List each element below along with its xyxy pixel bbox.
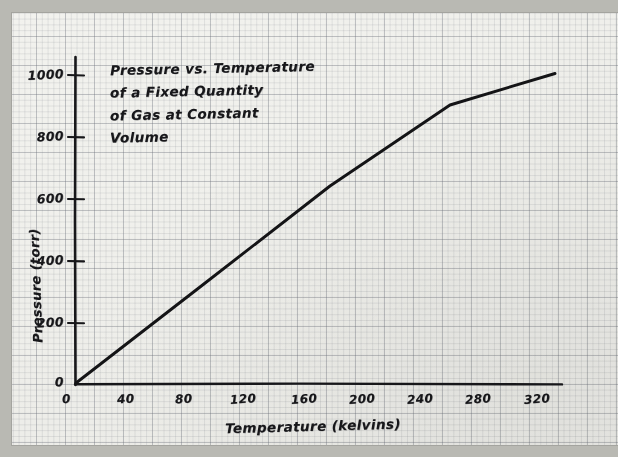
- chart-title-line-2: of a Fixed Quantity: [110, 81, 264, 100]
- x-axis-ticklabel-280: 280: [465, 391, 492, 407]
- x-axis-ticklabel-0: 0: [62, 392, 72, 407]
- x-axis-ticklabel-80: 80: [175, 391, 193, 406]
- y-axis-ticklabel-600: 600: [26, 190, 65, 207]
- y-axis-ticklabel-0: 0: [26, 374, 65, 391]
- x-axis-ticklabel-120: 120: [230, 391, 257, 407]
- graph-paper-sheet: [12, 13, 618, 445]
- scanned-graph-image: Pressure vs. Temperature of a Fixed Quan…: [0, 0, 618, 457]
- chart-title-line-4: Volume: [110, 128, 169, 145]
- x-axis-ticklabel-160: 160: [291, 391, 318, 407]
- chart-title-line-3: of Gas at Constant: [110, 104, 259, 123]
- y-axis-ticklabel-800: 800: [26, 128, 65, 145]
- x-axis-ticklabel-200: 200: [349, 391, 376, 407]
- x-axis-ticklabel-40: 40: [117, 391, 135, 406]
- x-axis-ticklabel-320: 320: [524, 391, 551, 407]
- y-axis-ticklabel-1000: 1000: [26, 66, 65, 83]
- x-axis-ticklabel-240: 240: [407, 391, 434, 407]
